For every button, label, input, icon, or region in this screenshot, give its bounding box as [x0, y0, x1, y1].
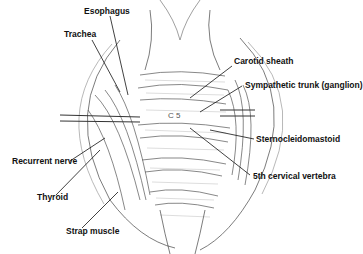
label-recurrent-nerve: Recurrent nerve [12, 156, 77, 166]
label-sympathetic-trunk: Sympathetic trunk (ganglion) [245, 80, 363, 90]
label-strap-muscle: Strap muscle [66, 226, 119, 236]
label-5th-cervical-vertebra: 5th cervical vertebra [253, 171, 336, 181]
vertebra-marker: C 5 [168, 111, 181, 120]
label-carotid-sheath: Carotid sheath [234, 56, 294, 66]
label-thyroid: Thyroid [37, 192, 68, 202]
label-trachea: Trachea [64, 29, 96, 39]
label-sternocleidomastoid: Sternocleidomastoid [256, 134, 340, 144]
label-esophagus: Esophagus [84, 6, 130, 16]
